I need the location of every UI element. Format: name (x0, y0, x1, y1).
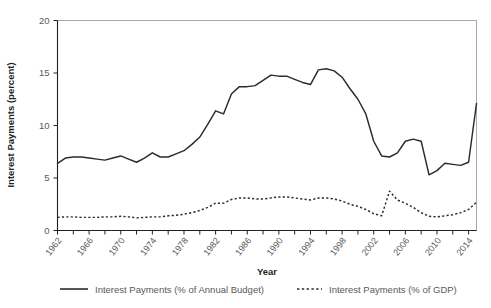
x-tick-label: 1974 (138, 236, 158, 258)
x-tick-label: 1990 (265, 236, 285, 258)
x-tick-label: 2002 (360, 236, 380, 258)
x-tick-label: 2010 (423, 236, 443, 258)
x-axis-title: Year (257, 266, 277, 277)
y-axis-ticks (54, 21, 58, 231)
y-tick-label: 5 (44, 172, 49, 183)
x-tick-label: 1966 (75, 236, 95, 258)
x-tick-label: 1998 (328, 236, 348, 258)
x-tick-label: 1994 (296, 236, 316, 258)
x-tick-label: 2014 (454, 236, 474, 258)
x-tick-label: 1970 (107, 236, 127, 258)
chart-figure: 05101520 1962196619701974197819821986199… (0, 0, 491, 308)
y-tick-label: 0 (44, 225, 49, 236)
x-tick-label: 1962 (43, 236, 63, 258)
legend-label-annual-budget: Interest Payments (% of Annual Budget) (95, 284, 264, 295)
series-line-annual-budget (58, 69, 477, 175)
legend-label-gdp: Interest Payments (% of GDP) (329, 284, 457, 295)
y-axis-tick-labels: 05101520 (39, 15, 50, 236)
y-tick-label: 10 (39, 120, 50, 131)
x-axis-tick-labels: 1962196619701974197819821986199019941998… (43, 236, 474, 258)
x-tick-label: 1978 (170, 236, 190, 258)
x-tick-label: 1986 (233, 236, 253, 258)
x-tick-label: 1982 (201, 236, 221, 258)
y-tick-label: 20 (39, 15, 50, 26)
chart-legend: Interest Payments (% of Annual Budget) I… (60, 284, 457, 295)
x-tick-label: 2006 (391, 236, 411, 258)
y-tick-label: 15 (39, 67, 50, 78)
series-line-gdp (58, 191, 477, 218)
x-axis-ticks (58, 231, 469, 235)
y-axis-title: Interest Payments (percent) (5, 62, 16, 187)
